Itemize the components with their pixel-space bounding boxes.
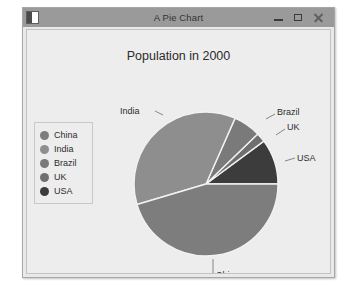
maximize-button[interactable]	[293, 12, 304, 23]
callout-line-uk	[276, 129, 285, 135]
callout-label-usa: USA	[297, 153, 316, 163]
callout-label-uk: UK	[287, 122, 300, 132]
callout-line-brazil	[266, 114, 275, 119]
callout-label-india: India	[120, 106, 140, 116]
pie-chart-svg: India Brazil UK USA China	[27, 30, 331, 274]
window-controls	[273, 12, 332, 23]
minimize-button[interactable]	[273, 12, 284, 23]
application-icon	[26, 11, 39, 24]
callout-label-china: China	[216, 270, 240, 274]
pie-chart: India Brazil UK USA China	[27, 30, 330, 273]
pie-slices	[134, 112, 278, 256]
chart-client-area: Population in 2000 China India Brazil UK…	[26, 29, 331, 274]
callout-line-india	[155, 111, 163, 115]
chart-window: A Pie Chart Population in 2000 China Ind…	[22, 7, 335, 278]
callout-line-usa	[285, 158, 295, 161]
callout-label-brazil: Brazil	[277, 107, 300, 117]
close-button[interactable]	[313, 12, 324, 23]
window-titlebar[interactable]: A Pie Chart	[23, 8, 334, 27]
